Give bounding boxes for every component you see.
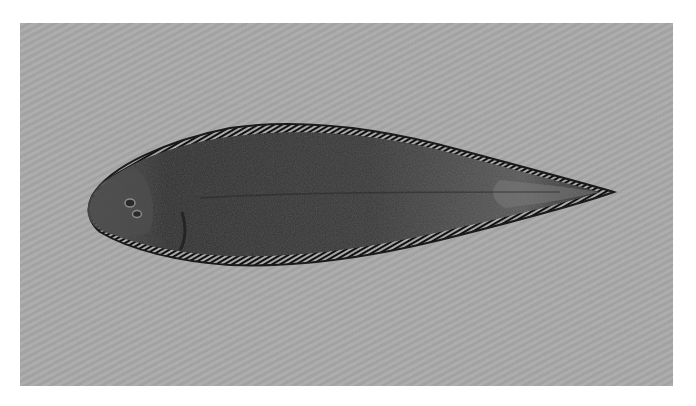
eye-upper-icon [125, 199, 135, 207]
fish-head [87, 168, 153, 236]
eye-lower-icon [133, 211, 142, 218]
flatfish-illustration [20, 23, 673, 386]
specimen-photo [20, 23, 673, 386]
